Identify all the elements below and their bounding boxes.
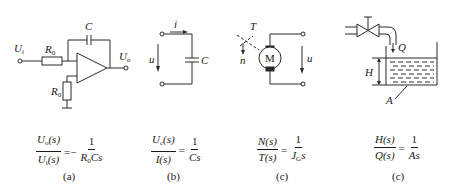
equation-b: Uc(s) I(s) = 1 Cs	[150, 133, 203, 166]
water-pattern	[390, 62, 434, 82]
terminal-bottom	[301, 82, 305, 86]
equation-c-tank: H(s) Q(s) = 1 As	[373, 133, 422, 162]
equation-c-motor: N(s) T(s) = 1 JGs	[256, 133, 307, 166]
opamp-triangle	[77, 53, 107, 83]
label-voltage: u	[307, 52, 313, 64]
label-voltage: u	[149, 53, 155, 65]
opamp-integrator-circuit	[18, 35, 128, 108]
label-resistor-ground: R0	[50, 85, 62, 99]
caption-a: (a)	[63, 170, 75, 182]
resistor-r0-input	[42, 57, 62, 65]
terminal-top	[301, 32, 305, 36]
label-torque: T	[250, 20, 257, 32]
area-leader-line	[395, 86, 407, 99]
label-height: H	[364, 66, 374, 78]
label-resistor-input: R0	[44, 43, 56, 57]
water-tank	[345, 17, 437, 99]
label-area: A	[385, 94, 393, 106]
terminal-top	[160, 32, 164, 36]
valve-left	[357, 24, 368, 37]
label-flow: Q	[398, 41, 406, 53]
output-terminal	[124, 66, 128, 70]
label-motor: M	[265, 52, 275, 64]
motor-brush-bottom	[266, 67, 274, 71]
terminal-bottom	[160, 82, 164, 86]
input-terminal	[18, 59, 22, 63]
capacitor-circuit	[156, 30, 199, 86]
shaft-dashed-line	[237, 35, 259, 50]
equation-a: Uo(s) Ui(s) =− 1 R0Cs	[35, 133, 104, 170]
label-current: i	[174, 18, 177, 30]
label-capacitor: C	[85, 20, 93, 32]
caption-b: (b)	[167, 170, 180, 182]
label-output-voltage: Uo	[119, 50, 131, 64]
label-speed: n	[240, 54, 246, 66]
caption-c-tank: (c)	[392, 170, 404, 182]
valve-right	[368, 24, 379, 37]
caption-c-motor: (c)	[276, 170, 288, 182]
label-capacitor: C	[201, 54, 209, 66]
resistor-r0-ground	[63, 82, 71, 100]
label-input-voltage: Ui	[14, 42, 24, 56]
